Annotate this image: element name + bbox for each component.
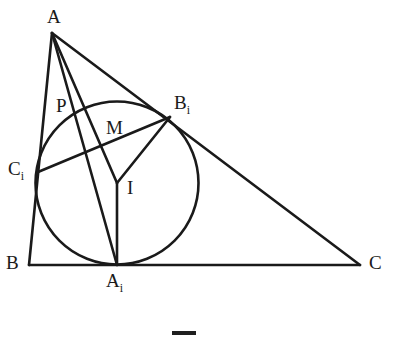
- segment-side-ac: [52, 33, 360, 265]
- point-label-i-main: I: [127, 177, 133, 198]
- point-label-p: P: [56, 96, 67, 119]
- point-label-ai-subscript: i: [120, 281, 123, 295]
- point-label-p-main: P: [56, 95, 67, 116]
- point-label-c-main: C: [369, 252, 382, 273]
- point-label-ai-main: A: [106, 270, 120, 291]
- point-label-bi-subscript: i: [187, 103, 190, 117]
- point-label-ci: Ci: [8, 159, 24, 182]
- point-label-b: B: [6, 253, 19, 276]
- point-label-ci-main: C: [8, 158, 21, 179]
- point-label-c: C: [369, 253, 382, 276]
- point-label-a: A: [47, 7, 61, 30]
- point-label-ai: Ai: [106, 271, 123, 294]
- point-label-m-main: M: [106, 117, 123, 138]
- point-label-b-main: B: [6, 252, 19, 273]
- point-label-bi: Bi: [174, 93, 190, 116]
- point-label-a-main: A: [47, 6, 61, 27]
- point-label-i: I: [127, 178, 133, 201]
- segment-side-ab: [29, 33, 52, 265]
- page-rule-marker: [172, 331, 196, 335]
- geometry-figure: A B C Ai Bi Ci P M I: [0, 0, 393, 337]
- point-label-bi-main: B: [174, 92, 187, 113]
- segment-cevian-a-ai: [52, 33, 117, 265]
- point-label-ci-subscript: i: [21, 169, 24, 183]
- point-label-m: M: [106, 118, 123, 141]
- geometry-canvas: [0, 0, 393, 337]
